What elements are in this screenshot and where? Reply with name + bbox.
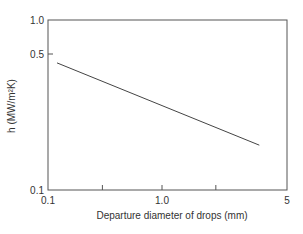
y-tick-label: 0.5 [30,49,44,60]
plot-frame [48,20,287,190]
y-tick-label: 1.0 [30,15,44,26]
series-line [57,63,259,145]
x-axis-label: Departure diameter of drops (mm) [96,210,247,221]
y-tick-label: 0.1 [30,185,44,196]
chart: 0.11.05 0.10.51.0 Departure diameter of … [0,0,303,234]
x-tick-label: 5 [284,195,290,206]
y-axis-label: h (MW/m²K) [6,79,17,133]
x-tick-label: 1.0 [155,195,169,206]
x-tick-label: 0.1 [41,195,55,206]
